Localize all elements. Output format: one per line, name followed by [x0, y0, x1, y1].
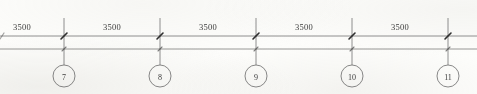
- drawing-canvas: [0, 0, 477, 94]
- dimension-label-dim-4: 3500: [391, 22, 409, 32]
- grid-bubble-label-9: 9: [254, 72, 258, 81]
- structural-grid-drawing: 789101135003500350035003500: [0, 0, 477, 94]
- grid-bubble-label-8: 8: [158, 72, 162, 81]
- grid-bubble-label-7: 7: [62, 72, 66, 81]
- dimension-label-dim-0: 3500: [13, 22, 31, 32]
- grid-bubble-label-11: 11: [444, 72, 452, 81]
- dimension-label-dim-2: 3500: [199, 22, 217, 32]
- grid-bubble-label-10: 10: [348, 72, 356, 81]
- dimension-label-dim-3: 3500: [295, 22, 313, 32]
- dimension-label-dim-1: 3500: [103, 22, 121, 32]
